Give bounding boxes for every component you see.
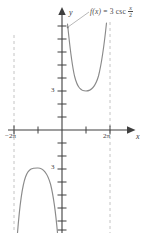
annotation-leader-dot	[67, 27, 69, 29]
x-tick-label-2pi: 2π	[103, 133, 110, 140]
function-equation-annotation: f(x) = 3 csc x2	[90, 5, 133, 19]
x-tick-label-minus-2pi: −2π	[5, 133, 16, 140]
equation-equals: =	[101, 7, 110, 16]
equation-fraction: x2	[128, 5, 133, 19]
y-tick-label-minus-3: 3	[51, 164, 55, 171]
y-axis-label: y	[69, 9, 73, 17]
equation-fraction-denominator: 2	[128, 12, 133, 18]
equation-fraction-numerator: x	[128, 5, 133, 12]
cosecant-graph-figure	[0, 0, 147, 233]
figure-background	[0, 0, 147, 233]
equation-trig-func: csc	[114, 7, 128, 16]
equation-function-name: f(x)	[90, 7, 101, 16]
y-tick-label-3: 3	[51, 87, 55, 94]
x-axis-label: x	[136, 133, 140, 141]
